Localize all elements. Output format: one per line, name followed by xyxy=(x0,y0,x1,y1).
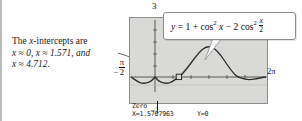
x-max-label: 2π xyxy=(267,66,276,76)
page-column-rule xyxy=(0,0,2,121)
annotation-line-1-post: -intercepts are xyxy=(33,36,87,46)
equation-text: y = 1 + cos2 x − 2 cos2 x2 xyxy=(171,17,263,33)
readout-y-value: Y=0 xyxy=(197,110,208,118)
equation-cos-first: cos xyxy=(201,21,214,32)
x-min-label: −π2 xyxy=(114,58,125,76)
x-min-label-denominator: 2 xyxy=(119,68,125,77)
equation-cos-second-exponent: 2 xyxy=(254,19,257,26)
annotation-line-1: The x-intercepts are xyxy=(12,36,132,48)
equation-y: y xyxy=(171,21,175,32)
annotation-line-1-pre: The xyxy=(12,36,29,46)
equation-equals: = xyxy=(178,21,183,32)
y-max-label: 3 xyxy=(152,1,157,11)
equation-callout: y = 1 + cos2 x − 2 cos2 x2 xyxy=(163,12,296,40)
equation-x-first: x xyxy=(219,21,223,32)
equation-fraction-denominator: 2 xyxy=(259,26,263,34)
equation-cos-first-exponent: 2 xyxy=(213,19,216,26)
equation-argument-fraction: x2 xyxy=(259,17,263,33)
x-min-label-fraction: π2 xyxy=(119,58,125,76)
y-min-label: −1 xyxy=(150,105,160,115)
function-curve xyxy=(131,47,266,83)
equation-minus-two: − 2 xyxy=(226,21,239,32)
zero-cursor-marker xyxy=(176,74,181,79)
equation-one-plus: 1 + xyxy=(186,21,199,32)
equation-cos-second: cos xyxy=(241,21,254,32)
textbook-figure: The x-intercepts are x ≈ 0, x ≈ 1.571, a… xyxy=(0,0,302,121)
readout-mode: Zero xyxy=(132,102,147,110)
